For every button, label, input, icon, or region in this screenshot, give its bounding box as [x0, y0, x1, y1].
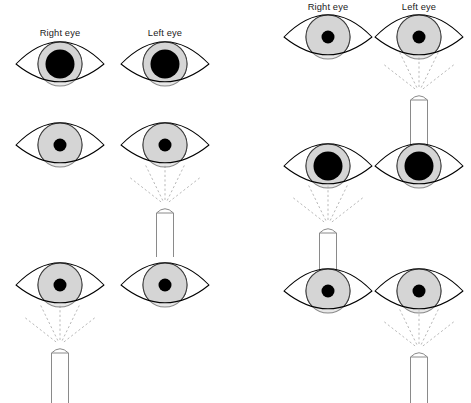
light-ray-1: [384, 65, 415, 89]
row-light-on-left-eye: [16, 123, 209, 257]
light-ray-4: [421, 309, 438, 344]
eye-left: [375, 269, 463, 313]
light-ray-1: [293, 198, 324, 222]
left-eye-label: Left eye: [148, 28, 182, 38]
penlight-dome: [320, 229, 337, 233]
panel-relative-afferent-pupillary-defect: Right eyeLeft eye: [284, 2, 463, 403]
right-eye-label: Right eye: [308, 2, 349, 12]
penlight-dome: [52, 349, 69, 353]
light-ray-2: [41, 305, 58, 340]
pupillary-reflex-figure: Right eyeLeft eyeRight eyeLeft eye: [0, 0, 471, 403]
pupil-right-constricted: [54, 139, 67, 152]
left-eye-label: Left eye: [402, 2, 436, 12]
light-ray-2: [146, 165, 163, 200]
eye-left: [121, 123, 209, 167]
pupil-left-constricted: [413, 31, 426, 44]
penlight-barrel: [411, 357, 428, 403]
pupil-right-dilated: [314, 152, 343, 181]
eye-right: [284, 144, 372, 188]
row-no-light-baseline: [16, 42, 209, 86]
eye-left: [121, 42, 209, 86]
light-ray-5: [64, 318, 95, 342]
penlight-dome: [157, 209, 174, 213]
pupil-left-constricted: [159, 279, 172, 292]
light-ray-4: [330, 185, 347, 220]
penlight: [293, 181, 362, 278]
row-light-on-right-eye: [16, 263, 209, 403]
light-ray-2: [309, 185, 326, 220]
eye-left: [375, 144, 463, 188]
penlight: [25, 301, 94, 403]
eye-right: [284, 269, 372, 313]
penlight-dome: [411, 96, 428, 100]
penlight-barrel: [157, 213, 174, 257]
eye-left: [375, 15, 463, 59]
light-ray-1: [384, 322, 415, 346]
penlight: [130, 161, 199, 257]
pupil-right-constricted: [322, 31, 335, 44]
eye-right: [16, 42, 104, 86]
penlight-barrel: [52, 353, 69, 403]
pupil-right-constricted: [54, 279, 67, 292]
light-ray-5: [169, 178, 200, 202]
eye-right: [16, 263, 104, 307]
eye-right: [16, 123, 104, 167]
light-ray-4: [167, 165, 184, 200]
pupil-left-constricted: [159, 139, 172, 152]
panel-normal-pupillary-response: Right eyeLeft eye: [16, 28, 209, 403]
penlight: [384, 305, 453, 403]
penlight-barrel: [411, 100, 428, 145]
penlight-dome: [411, 353, 428, 357]
pupil-left-dilated: [151, 50, 180, 79]
figure-canvas: Right eyeLeft eyeRight eyeLeft eye: [0, 0, 471, 403]
eye-left: [121, 263, 209, 307]
penlight: [384, 48, 453, 145]
light-ray-4: [62, 305, 79, 340]
row-light-on-right-eye-dilated: [284, 144, 463, 278]
light-ray-2: [400, 309, 417, 344]
light-ray-5: [423, 322, 454, 346]
light-ray-5: [423, 65, 454, 89]
right-eye-label: Right eye: [40, 28, 81, 38]
row-light-back-on-left-eye-constricted: [284, 269, 463, 403]
pupil-left-constricted: [413, 285, 426, 298]
pupil-left-dilated: [405, 152, 434, 181]
eye-right: [284, 15, 372, 59]
light-ray-5: [332, 198, 363, 222]
pupil-right-constricted: [322, 285, 335, 298]
row-light-on-left-eye-constricted: [284, 15, 463, 145]
light-ray-1: [130, 178, 161, 202]
light-ray-1: [25, 318, 56, 342]
pupil-right-dilated: [46, 50, 75, 79]
